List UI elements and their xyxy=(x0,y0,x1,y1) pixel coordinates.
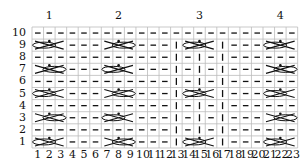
cable-symbol xyxy=(33,88,64,97)
cable-symbol xyxy=(264,88,295,97)
cable-symbol xyxy=(264,40,295,49)
cable-symbol xyxy=(33,40,64,49)
cable-symbol xyxy=(266,64,297,73)
cable-symbol xyxy=(104,40,135,49)
cable-symbol xyxy=(183,137,214,146)
cable-symbol xyxy=(102,64,133,73)
cable-symbol xyxy=(104,88,135,97)
cable-symbol xyxy=(183,40,214,49)
cable-symbol xyxy=(35,112,66,121)
cable-symbol xyxy=(35,64,66,73)
cable-symbol xyxy=(266,112,297,121)
cable-symbol xyxy=(104,137,135,146)
chart-grid xyxy=(0,0,308,164)
cable-symbol xyxy=(33,137,64,146)
cable-symbol xyxy=(183,88,214,97)
cable-symbol xyxy=(102,112,133,121)
cable-symbol xyxy=(264,137,295,146)
knitting-chart: 1234567891012345678910111213141516171819… xyxy=(0,0,308,164)
